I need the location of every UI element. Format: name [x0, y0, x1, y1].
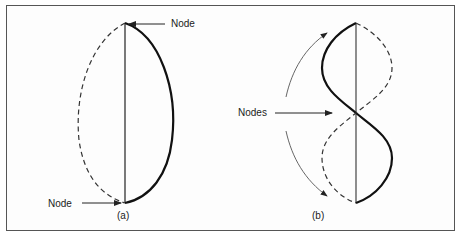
- panel-a: [78, 23, 173, 203]
- caption-b: (b): [312, 211, 324, 221]
- rotation-arrow-lower: [286, 131, 327, 196]
- solid-displacement-b: [322, 23, 392, 203]
- bottom-node-label: Node: [48, 199, 72, 209]
- dashed-displacement-a: [78, 23, 125, 203]
- top-node-label: Node: [171, 19, 195, 29]
- caption-a: (a): [117, 211, 129, 221]
- panel-b: [275, 23, 392, 203]
- nodes-label: Nodes: [238, 108, 267, 118]
- rotation-arrow-upper: [286, 33, 327, 97]
- solid-displacement-a: [125, 23, 173, 203]
